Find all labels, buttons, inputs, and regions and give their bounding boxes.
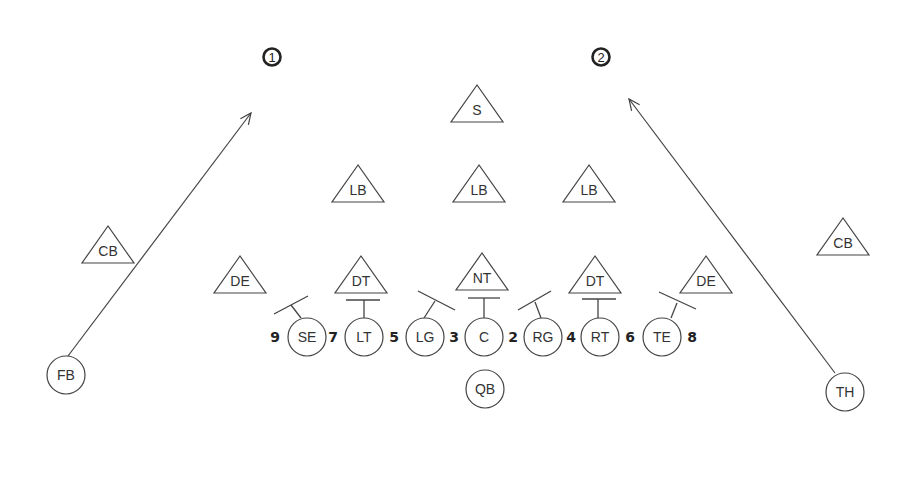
block-assignment <box>582 299 616 318</box>
defender-label: CB <box>98 243 117 259</box>
player-label: LT <box>356 329 372 345</box>
defender-label: NT <box>473 270 492 286</box>
defender-label: DT <box>352 273 371 289</box>
player-th[interactable]: TH <box>826 373 864 411</box>
player-rt[interactable]: RT <box>581 318 619 356</box>
player-c[interactable]: C <box>465 318 503 356</box>
block-assignment <box>346 300 380 318</box>
gap-number: 8 <box>687 329 697 345</box>
gap-number: 5 <box>389 329 399 345</box>
block-layer <box>274 291 696 318</box>
play-diagram: SLBLBLBCBCBDEDTNTDTDE SELTLGCRGRTTEQBFBT… <box>0 0 914 480</box>
player-lt[interactable]: LT <box>345 318 383 356</box>
block-assignment <box>659 292 696 318</box>
player-label: FB <box>57 367 75 383</box>
defender-de[interactable]: DE <box>214 256 266 293</box>
player-te[interactable]: TE <box>643 318 681 356</box>
gap-number: 9 <box>270 329 280 345</box>
defender-dt[interactable]: DT <box>569 256 621 293</box>
defender-lb[interactable]: LB <box>563 165 615 202</box>
defender-label: LB <box>580 182 597 198</box>
defender-de[interactable]: DE <box>680 256 732 293</box>
block-assignment <box>418 291 455 318</box>
player-label: TE <box>653 329 671 345</box>
route-arrow-1 <box>68 113 251 356</box>
defender-s[interactable]: S <box>451 85 503 122</box>
player-label: RT <box>591 329 610 345</box>
player-fb[interactable]: FB <box>47 356 85 394</box>
marker-label: 1 <box>268 50 275 65</box>
player-label: SE <box>298 329 317 345</box>
player-label: QB <box>475 381 495 397</box>
defender-label: S <box>472 102 481 118</box>
player-label: LG <box>416 329 435 345</box>
route-marker-2: 2 <box>593 49 610 66</box>
block-assignment <box>468 298 500 318</box>
player-se[interactable]: SE <box>288 318 326 356</box>
gap-number: 2 <box>508 329 518 345</box>
gap-number: 3 <box>449 329 459 345</box>
defender-label: DE <box>696 273 715 289</box>
player-qb[interactable]: QB <box>466 370 504 408</box>
defender-label: DE <box>230 273 249 289</box>
player-label: C <box>479 329 489 345</box>
block-assignment <box>518 291 551 318</box>
player-lg[interactable]: LG <box>406 318 444 356</box>
defender-nt[interactable]: NT <box>456 253 508 290</box>
defender-cb[interactable]: CB <box>82 226 134 263</box>
defender-label: CB <box>833 235 852 251</box>
player-label: TH <box>836 384 855 400</box>
route-marker-1: 1 <box>264 49 281 66</box>
defender-dt[interactable]: DT <box>335 256 387 293</box>
route-marker-layer: 12 <box>264 49 610 66</box>
defender-label: DT <box>586 273 605 289</box>
defender-lb[interactable]: LB <box>332 165 384 202</box>
gap-number: 7 <box>328 329 338 345</box>
gap-number: 6 <box>625 329 635 345</box>
block-assignment <box>274 296 308 318</box>
defender-lb[interactable]: LB <box>453 165 505 202</box>
player-rg[interactable]: RG <box>524 318 562 356</box>
player-label: RG <box>533 329 554 345</box>
defender-cb[interactable]: CB <box>817 218 869 255</box>
defender-label: LB <box>470 182 487 198</box>
defender-label: LB <box>349 182 366 198</box>
marker-label: 2 <box>597 50 604 65</box>
gap-number: 4 <box>566 329 576 345</box>
